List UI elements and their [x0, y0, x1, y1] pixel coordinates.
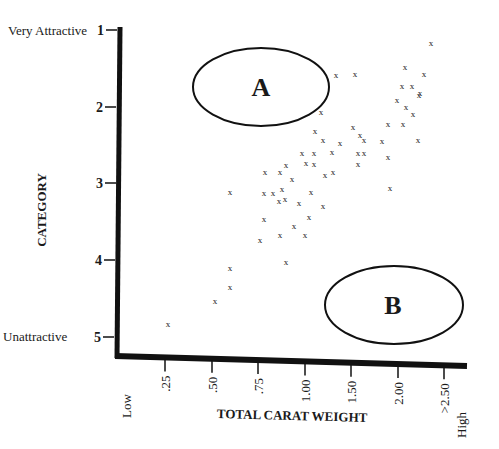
data-point-x-marker: x [362, 135, 367, 145]
x-tick-label: 1.00 [298, 379, 313, 402]
data-point-x-marker: x [307, 212, 312, 222]
x-tick-label: .25 [158, 375, 173, 391]
data-point-x-marker: x [312, 159, 317, 169]
data-point-x-marker: x [284, 257, 289, 267]
data-point-x-marker: x [280, 184, 285, 194]
scatter-chart: 12345 .25.50.751.001.502.00>2.50 Very At… [0, 0, 499, 449]
x-tick-label: 2.00 [391, 382, 406, 405]
data-point-x-marker: x [416, 135, 421, 145]
data-point-x-marker: x [262, 214, 267, 224]
y-tick-label: 4 [95, 253, 102, 268]
data-point-x-marker: x [411, 109, 416, 119]
data-point-x-marker: x [351, 122, 356, 132]
data-point-x-marker: x [353, 69, 358, 79]
y-top-label: Very Attractive [8, 23, 87, 38]
data-point-x-marker: x [262, 188, 267, 198]
data-point-x-marker: x [213, 296, 218, 306]
y-tick-label: 5 [94, 330, 101, 345]
x-axis-line [115, 356, 467, 366]
data-point-x-marker: x [278, 167, 283, 177]
data-point-x-marker: x [417, 90, 422, 100]
x-low-label: Low [119, 393, 134, 417]
data-point-x-marker: x [380, 136, 385, 146]
data-point-x-marker: x [400, 81, 405, 91]
data-point-x-marker: x [303, 230, 308, 240]
data-point-x-marker: x [309, 187, 314, 197]
data-point-x-marker: x [362, 148, 367, 158]
data-point-x-marker: x [300, 148, 305, 158]
data-point-x-marker: x [271, 188, 276, 198]
data-point-x-marker: x [330, 147, 335, 157]
y-axis-line [117, 27, 120, 358]
data-point-x-marker: x [292, 221, 297, 231]
x-tick-label: .50 [205, 377, 220, 393]
data-point-x-marker: x [284, 160, 289, 170]
data-point-x-marker: x [356, 159, 361, 169]
ellipse-a-label: A [252, 73, 271, 102]
data-point-x-marker: x [331, 167, 336, 177]
data-point-x-marker: x [319, 107, 324, 117]
data-point-x-marker: x [429, 38, 434, 48]
data-point-x-marker: x [228, 187, 233, 197]
data-point-x-marker: x [321, 135, 326, 145]
data-point-x-marker: x [283, 194, 288, 204]
data-point-x-marker: x [312, 148, 317, 158]
data-point-x-marker: x [358, 130, 363, 140]
data-point-x-marker: x [258, 235, 263, 245]
data-point-x-marker: x [334, 70, 339, 80]
x-high-label: High [454, 412, 469, 439]
data-point-x-marker: x [410, 81, 415, 91]
data-points: xxxxxxxxxxxxxxxxxxxxxxxxxxxxxxxxxxxxxxxx… [166, 38, 434, 329]
data-point-x-marker: x [422, 69, 427, 79]
data-point-x-marker: x [395, 95, 400, 105]
y-ticks: 12345 [94, 23, 117, 345]
data-point-x-marker: x [313, 126, 318, 136]
data-point-x-marker: x [323, 170, 328, 180]
y-tick-label: 3 [96, 176, 103, 191]
y-tick-label: 1 [97, 23, 104, 38]
data-point-x-marker: x [304, 158, 309, 168]
data-point-x-marker: x [404, 102, 409, 112]
data-point-x-marker: x [278, 230, 283, 240]
y-axis-title: CATEGORY [34, 173, 49, 247]
data-point-x-marker: x [166, 319, 171, 329]
x-ticks: .25.50.751.001.502.00>2.50 [158, 359, 452, 413]
data-point-x-marker: x [403, 62, 408, 72]
data-point-x-marker: x [263, 167, 268, 177]
x-tick-label: >2.50 [437, 383, 452, 413]
y-bottom-label: Unattractive [3, 329, 67, 344]
data-point-x-marker: x [228, 282, 233, 292]
data-point-x-marker: x [386, 152, 391, 162]
y-tick-label: 2 [96, 100, 103, 115]
data-point-x-marker: x [356, 148, 361, 158]
data-point-x-marker: x [338, 138, 343, 148]
x-axis-title: TOTAL CARAT WEIGHT [217, 406, 368, 425]
data-point-x-marker: x [386, 119, 391, 129]
x-tick-label: 1.50 [344, 381, 359, 404]
data-point-x-marker: x [388, 183, 393, 193]
x-tick-label: .75 [251, 378, 266, 394]
data-point-x-marker: x [277, 196, 282, 206]
data-point-x-marker: x [401, 119, 406, 129]
ellipse-b-label: B [384, 291, 401, 320]
data-point-x-marker: x [228, 263, 233, 273]
data-point-x-marker: x [297, 198, 302, 208]
data-point-x-marker: x [290, 174, 295, 184]
data-point-x-marker: x [321, 201, 326, 211]
